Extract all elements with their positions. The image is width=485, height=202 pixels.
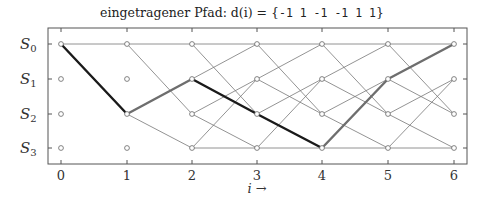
trellis-nodes (59, 42, 457, 151)
x-tick-label: 0 (57, 168, 65, 183)
state-node (255, 112, 260, 117)
path-segment-plus-one (127, 79, 192, 114)
state-label: S2 (20, 105, 37, 124)
state-label: S3 (20, 139, 37, 158)
state-node (320, 146, 325, 151)
trellis-edge (322, 114, 388, 148)
trellis-edge (257, 79, 322, 148)
state-node (452, 146, 457, 151)
state-label: S0 (20, 35, 37, 54)
trellis-edge (322, 44, 388, 79)
trellis-diagram: eingetragener Pfad: d(i) = {-1 1 -1 -1 1… (0, 0, 485, 202)
state-node (125, 112, 130, 117)
trellis-edges (61, 44, 454, 148)
figure-title: eingetragener Pfad: d(i) = {-1 1 -1 -1 1… (100, 5, 384, 20)
state-node (320, 112, 325, 117)
x-ticks (61, 28, 454, 164)
x-tick-label: 2 (188, 168, 196, 183)
trellis-edge (127, 44, 192, 114)
x-tick-label: 5 (384, 168, 392, 183)
y-state-labels: S0S1S2S3 (20, 35, 37, 158)
title-sequence: -1 1 -1 -1 1 1 (279, 6, 376, 20)
state-node (125, 42, 130, 47)
path-segment-plus-one (322, 79, 388, 148)
trellis-edge (192, 44, 257, 114)
state-node (190, 146, 195, 151)
state-node (255, 42, 260, 47)
state-node (452, 112, 457, 117)
state-node (255, 77, 260, 82)
state-node (190, 112, 195, 117)
trellis-edge (127, 114, 192, 148)
x-tick-label: 1 (123, 168, 131, 183)
trellis-edge (388, 114, 454, 148)
trellis-edge (322, 44, 388, 114)
x-tick-label: 6 (450, 168, 458, 183)
state-node (59, 112, 64, 117)
trellis-edge (257, 44, 322, 79)
path-segment-minus-one (61, 44, 127, 114)
state-node (386, 112, 391, 117)
title-suffix: } (376, 5, 384, 20)
title-prefix: eingetragener Pfad: d(i) = { (100, 5, 279, 20)
trellis-edge (257, 44, 322, 114)
path-segment-minus-one (257, 114, 322, 148)
selected-path (61, 44, 454, 148)
state-node (59, 146, 64, 151)
path-segment-plus-one (388, 44, 454, 79)
trellis-edge (388, 79, 454, 148)
x-axis-label: i → (247, 181, 266, 196)
state-node (452, 42, 457, 47)
state-node (452, 77, 457, 82)
state-node (255, 146, 260, 151)
state-node (190, 42, 195, 47)
state-node (386, 42, 391, 47)
state-node (320, 77, 325, 82)
state-node (320, 42, 325, 47)
state-node (59, 77, 64, 82)
trellis-edge (192, 44, 257, 79)
trellis-edge (192, 79, 257, 148)
state-node (386, 146, 391, 151)
state-node (386, 77, 391, 82)
state-label: S1 (20, 70, 37, 89)
x-tick-label: 4 (318, 168, 326, 183)
trellis-edge (192, 114, 257, 148)
state-node (59, 42, 64, 47)
state-node (125, 77, 130, 82)
state-node (190, 77, 195, 82)
trellis-edge (388, 44, 454, 114)
state-node (125, 146, 130, 151)
